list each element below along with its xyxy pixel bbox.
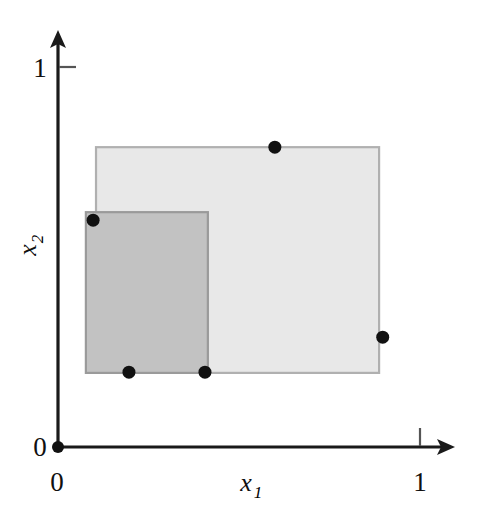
- data-point-bottom-right: [198, 366, 211, 379]
- x-axis-tick-label-1: 1: [413, 467, 427, 497]
- scatter-plot-with-rectangles: 1 0 0 1 x 2 x 1: [0, 0, 485, 508]
- data-point-bottom-left: [122, 366, 135, 379]
- data-point-left: [87, 214, 100, 227]
- x-axis-tick-label-0: 0: [50, 467, 64, 497]
- data-point-top: [268, 141, 281, 154]
- x-axis-title-sub: 1: [254, 483, 263, 502]
- y-axis-title: x 2: [13, 234, 47, 257]
- data-point-origin: [52, 441, 64, 453]
- y-axis-title-sub: 2: [28, 234, 47, 243]
- figure-container: 1 0 0 1 x 2 x 1: [0, 0, 485, 508]
- inner-rectangle: [86, 212, 208, 373]
- x-axis-title: x 1: [239, 468, 262, 502]
- y-axis-title-main: x: [13, 244, 42, 257]
- y-axis-tick-label-0: 0: [33, 432, 47, 462]
- data-point-right: [376, 331, 389, 344]
- y-axis-tick-label-1: 1: [33, 53, 47, 83]
- x-axis-title-main: x: [239, 468, 252, 497]
